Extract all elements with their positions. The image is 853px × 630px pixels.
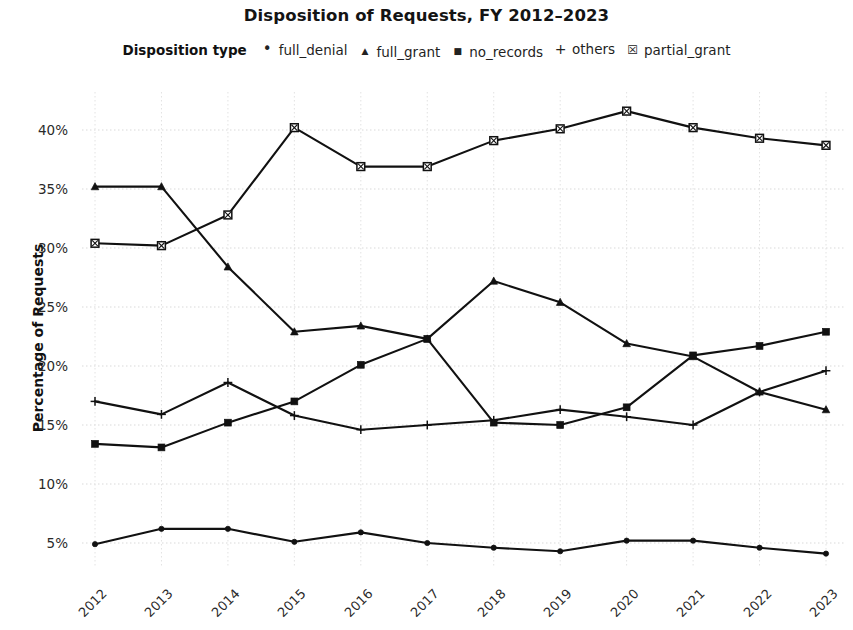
- data-point-marker: [823, 551, 828, 556]
- data-point-marker: [558, 549, 563, 554]
- data-point-marker: [225, 419, 232, 426]
- series-line: [95, 529, 826, 554]
- series-line: [95, 187, 826, 410]
- data-point-marker: [290, 124, 298, 132]
- series-no_records: [92, 328, 830, 450]
- data-point-marker: [358, 530, 363, 535]
- data-point-marker: [91, 239, 99, 247]
- data-point-marker: [490, 277, 498, 284]
- data-point-marker: [689, 421, 698, 430]
- data-point-marker: [159, 526, 164, 531]
- data-point-marker: [756, 134, 764, 142]
- data-point-marker: [490, 137, 498, 145]
- plot-area: [0, 0, 853, 630]
- data-point-marker: [823, 328, 830, 335]
- data-point-marker: [624, 538, 629, 543]
- data-point-marker: [622, 412, 631, 421]
- data-point-marker: [157, 410, 166, 419]
- data-point-marker: [356, 425, 365, 434]
- data-point-marker: [91, 397, 100, 406]
- data-point-marker: [557, 422, 564, 429]
- data-point-marker: [822, 141, 830, 149]
- data-point-marker: [822, 366, 831, 375]
- data-point-marker: [290, 411, 299, 420]
- data-point-marker: [491, 545, 496, 550]
- data-point-marker: [291, 398, 298, 405]
- data-point-marker: [92, 542, 97, 547]
- data-point-marker: [690, 352, 697, 359]
- data-point-marker: [224, 211, 232, 219]
- series-full_denial: [92, 526, 828, 556]
- series-line: [95, 111, 826, 246]
- series-full_grant: [91, 183, 830, 413]
- data-point-marker: [689, 124, 697, 132]
- data-point-marker: [224, 378, 233, 387]
- chart-figure: Disposition of Requests, FY 2012–2023 Di…: [0, 0, 853, 630]
- data-point-marker: [423, 163, 431, 171]
- data-point-marker: [623, 404, 630, 411]
- data-point-marker: [357, 361, 364, 368]
- data-point-marker: [757, 545, 762, 550]
- series-partial_grant: [91, 107, 830, 249]
- data-point-marker: [225, 526, 230, 531]
- data-point-marker: [623, 107, 631, 115]
- data-point-marker: [292, 539, 297, 544]
- data-point-marker: [158, 242, 166, 250]
- data-point-marker: [425, 540, 430, 545]
- data-point-marker: [158, 444, 165, 451]
- series-line: [95, 332, 826, 448]
- data-point-marker: [690, 538, 695, 543]
- data-point-marker: [423, 421, 432, 430]
- data-point-marker: [424, 335, 431, 342]
- series-others: [91, 366, 831, 434]
- data-point-marker: [556, 125, 564, 133]
- data-point-marker: [92, 440, 99, 447]
- data-point-marker: [357, 163, 365, 171]
- grid-lines: [82, 92, 845, 568]
- data-point-marker: [756, 343, 763, 350]
- data-point-marker: [556, 405, 565, 414]
